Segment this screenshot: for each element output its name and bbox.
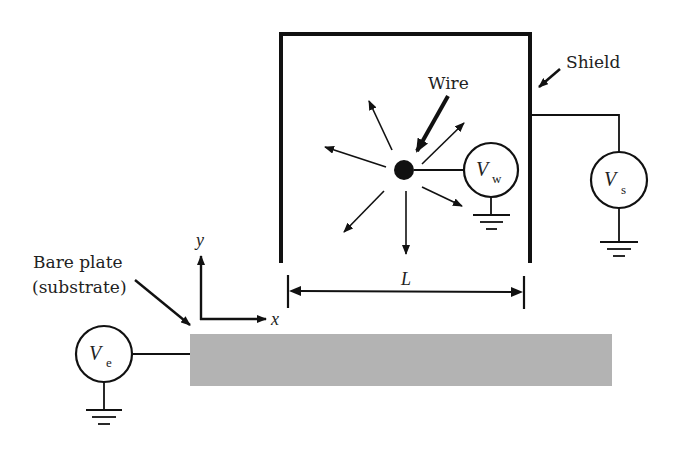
shield-voltage-source: V s <box>532 115 647 256</box>
shield-label: Shield <box>566 52 621 72</box>
ve-circle <box>76 326 132 382</box>
length-label: L <box>400 269 411 289</box>
bare-plate-pointer-arrow <box>135 280 190 325</box>
vw-circle <box>464 143 518 197</box>
shield-lead <box>532 115 619 152</box>
diagram-canvas: Shield Wire V w V s <box>0 0 676 451</box>
substrate-plate <box>190 334 612 386</box>
wire-label: Wire <box>428 73 469 93</box>
field-arrow-down-left <box>344 191 384 232</box>
bare-plate-label-group: Bare plate (substrate) <box>32 252 190 325</box>
x-axis-label: x <box>270 309 279 329</box>
vs-subscript: s <box>621 182 626 197</box>
length-dimension: L <box>288 269 524 309</box>
bare-plate-label: Bare plate <box>33 252 123 272</box>
field-arrows <box>325 101 464 254</box>
coordinate-axes: y x <box>194 230 279 329</box>
field-arrow-up-left <box>369 101 392 150</box>
plate-voltage-source: V e <box>76 326 190 424</box>
dimension-arrow-right <box>511 287 523 297</box>
field-arrow-left <box>325 147 386 167</box>
wire-label-group: Wire <box>417 73 469 151</box>
vs-circle <box>591 152 647 208</box>
field-arrow-down-right <box>422 187 462 206</box>
ground-icon <box>473 215 510 229</box>
vw-subscript: w <box>492 171 502 186</box>
ve-subscript: e <box>106 355 112 370</box>
ground-icon <box>86 410 122 424</box>
wire-dot <box>394 160 414 180</box>
substrate-label: (substrate) <box>32 277 127 297</box>
y-axis-label: y <box>194 230 204 250</box>
shield-label-group: Shield <box>539 52 621 87</box>
dimension-arrow-left <box>289 286 301 296</box>
shield-pointer-arrow <box>539 69 560 87</box>
ground-icon <box>600 242 638 256</box>
